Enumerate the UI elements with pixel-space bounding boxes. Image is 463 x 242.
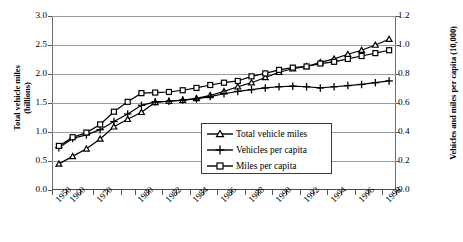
x-tick-label: 1988 bbox=[247, 185, 266, 204]
legend-label: Miles per capita bbox=[234, 161, 296, 171]
legend-item: Miles per capita bbox=[202, 158, 331, 174]
chart-figure: Total vehicle miles (billions) Vehicles … bbox=[0, 0, 463, 242]
x-axis-tick-labels: 1950196019701980198219841986198819901992… bbox=[0, 0, 463, 242]
x-tick-label: 1996 bbox=[357, 185, 376, 204]
square-marker-icon bbox=[206, 159, 234, 173]
x-tick-label: 1992 bbox=[302, 185, 321, 204]
x-tick-label: 1998 bbox=[384, 185, 403, 204]
triangle-marker-icon bbox=[206, 127, 234, 141]
x-tick-label: 1984 bbox=[191, 185, 210, 204]
legend-label: Total vehicle miles bbox=[234, 129, 307, 139]
legend-item: Vehicles per capita bbox=[202, 142, 331, 158]
plus-marker-icon bbox=[206, 143, 234, 157]
x-tick-label: 1990 bbox=[274, 185, 293, 204]
x-tick-label: 1980 bbox=[136, 185, 155, 204]
legend-item: Total vehicle miles bbox=[202, 126, 331, 142]
x-tick-label: 1982 bbox=[164, 185, 183, 204]
x-tick-label: 1994 bbox=[329, 185, 348, 204]
x-tick-label: 1986 bbox=[219, 185, 238, 204]
chart-legend: Total vehicle milesVehicles per capitaMi… bbox=[201, 123, 332, 174]
x-tick-label: 1970 bbox=[95, 185, 114, 204]
legend-label: Vehicles per capita bbox=[234, 145, 307, 155]
